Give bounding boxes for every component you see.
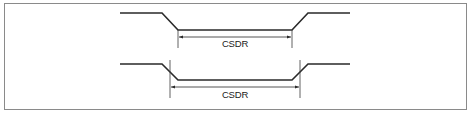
timing-diagram: CSDR CSDR: [0, 0, 474, 117]
signal-trace: [120, 64, 350, 80]
csdr-label: CSDR: [222, 89, 248, 100]
signal-trace: [120, 13, 350, 30]
waveform-top: CSDR: [120, 13, 350, 49]
waveform-bottom: CSDR: [120, 60, 350, 100]
csdr-label: CSDR: [222, 38, 248, 49]
